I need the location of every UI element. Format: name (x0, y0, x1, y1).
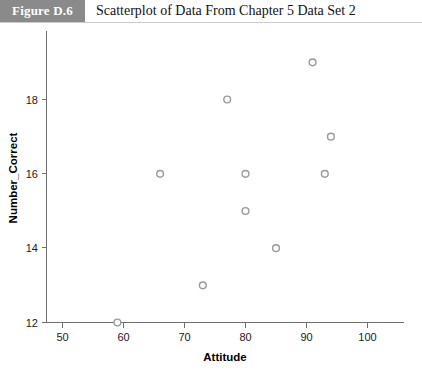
plot-axes (47, 31, 405, 323)
y-tick-label: 14 (26, 242, 38, 254)
figure-page: Figure D.6 Scatterplot of Data From Chap… (0, 0, 422, 374)
y-axis-title: Number_Correct (7, 132, 19, 223)
data-point (242, 208, 249, 215)
scatterplot-chart: 18 16 14 12 50 60 70 80 90 100 Attitude (0, 23, 422, 374)
data-point (328, 133, 335, 140)
x-tick-label: 60 (117, 331, 129, 343)
figure-number-badge: Figure D.6 (0, 0, 85, 22)
data-point-group (114, 59, 334, 326)
data-point (199, 282, 206, 289)
y-tick-label: 18 (26, 94, 38, 106)
data-point (224, 96, 231, 103)
y-tick-label: 12 (26, 317, 38, 329)
figure-header: Figure D.6 Scatterplot of Data From Chap… (0, 0, 422, 22)
scatterplot-svg: 18 16 14 12 50 60 70 80 90 100 Attitude (0, 23, 422, 374)
x-tick-label: 100 (358, 331, 376, 343)
x-tick-label: 80 (239, 331, 251, 343)
x-axis-title: Attitude (203, 351, 246, 363)
data-point (157, 170, 164, 177)
data-point (114, 319, 121, 326)
x-tick-label: 90 (300, 331, 312, 343)
data-point (242, 170, 249, 177)
y-tick-label: 16 (26, 168, 38, 180)
x-axis-ticks: 50 60 70 80 90 100 (56, 323, 376, 344)
y-axis-ticks: 18 16 14 12 (26, 94, 47, 329)
data-point (321, 170, 328, 177)
figure-title: Scatterplot of Data From Chapter 5 Data … (85, 0, 422, 22)
x-tick-label: 70 (178, 331, 190, 343)
data-point (309, 59, 316, 66)
data-point (273, 245, 280, 252)
x-tick-label: 50 (56, 331, 68, 343)
